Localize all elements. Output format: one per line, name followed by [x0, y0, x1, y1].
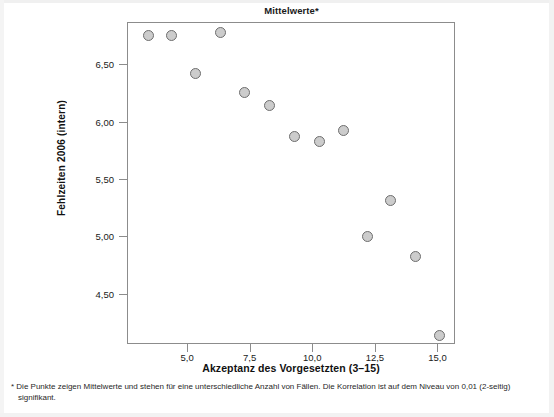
y-axis-tick-label: 4,50 — [74, 288, 114, 299]
x-axis-tick-mark — [187, 344, 188, 352]
y-axis-tick-mark — [119, 64, 127, 65]
data-point — [264, 100, 275, 111]
x-axis-tick-mark — [375, 344, 376, 352]
plot-area — [128, 23, 454, 343]
data-point — [166, 30, 177, 41]
scan-edge-right — [549, 0, 554, 417]
y-axis-tick-mark — [119, 122, 127, 123]
plot-frame — [127, 22, 455, 344]
data-point — [190, 68, 201, 79]
y-axis-tick-mark — [119, 179, 127, 180]
x-axis-tick-mark — [250, 344, 251, 352]
figure-container: Mittelwerte* Fehlzeiten 2006 (intern) 6,… — [0, 0, 554, 417]
data-point — [338, 125, 349, 136]
data-point — [410, 251, 421, 262]
y-axis-tick-label: 5,50 — [74, 173, 114, 184]
chart-title: Mittelwerte* — [128, 5, 455, 16]
scan-edge-top — [0, 0, 554, 3]
data-point — [239, 87, 250, 98]
data-point — [362, 231, 373, 242]
footnote-text: * Die Punkte zeigen Mittelwerte und steh… — [11, 381, 539, 403]
x-axis-tick-mark — [312, 344, 313, 352]
y-axis-tick-mark — [119, 236, 127, 237]
y-axis-tick-label: 6,50 — [74, 59, 114, 70]
data-point — [314, 136, 325, 147]
x-axis-tick-mark — [437, 344, 438, 352]
data-point — [143, 30, 154, 41]
x-axis-label: Akzeptanz des Vorgesetzten (3–15) — [127, 362, 455, 374]
data-point — [385, 195, 396, 206]
scan-edge-left — [0, 0, 4, 417]
y-axis-tick-label: 6,00 — [74, 116, 114, 127]
data-point — [215, 27, 226, 38]
data-point — [434, 330, 445, 341]
y-axis-tick-mark — [119, 294, 127, 295]
y-axis-tick-label: 5,00 — [74, 231, 114, 242]
data-point — [289, 131, 300, 142]
footnote: * Die Punkte zeigen Mittelwerte und steh… — [11, 381, 539, 403]
y-axis-label: Fehlzeiten 2006 (intern) — [56, 100, 76, 216]
scan-edge-bottom — [0, 413, 554, 417]
